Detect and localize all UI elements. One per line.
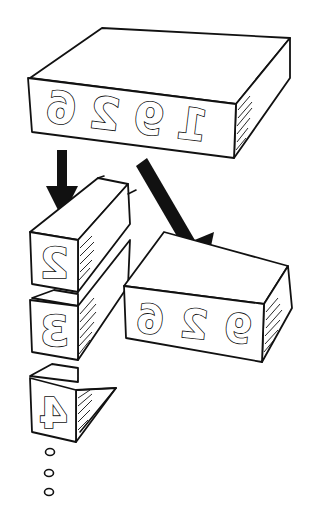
right-block-glyph-1: 9 <box>222 304 254 353</box>
right-block-glyph-2: 2 <box>178 300 210 349</box>
stack-block-2-glyph: 2 <box>40 239 69 288</box>
top-block-glyph-4: 6 <box>43 81 80 135</box>
ellipsis-dots <box>45 449 55 496</box>
stack-block-3-glyph: 3 <box>40 307 69 356</box>
top-block: 1 9 2 6 <box>28 28 290 158</box>
right-block: 9 2 6 <box>124 232 292 362</box>
top-block-glyph-3: 2 <box>87 86 124 140</box>
top-block-glyph-1: 1 <box>174 97 211 151</box>
type-blocks-illustration: 1 9 2 6 2 <box>0 0 311 528</box>
stack-block-4: 4 <box>30 364 116 442</box>
top-block-glyph-2: 9 <box>130 92 167 146</box>
right-block-glyph-3: 6 <box>134 295 166 344</box>
stack-block-4-glyph: 4 <box>39 389 68 438</box>
